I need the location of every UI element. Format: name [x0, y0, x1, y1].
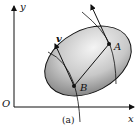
rigid-body-ellipse — [33, 12, 140, 110]
point-B-label: B — [79, 82, 87, 93]
rigid-body-diagram: y x O A B v (a) — [0, 0, 140, 129]
x-axis-label: x — [128, 113, 134, 124]
origin-label: O — [2, 98, 10, 109]
point-B — [72, 84, 76, 88]
velocity-label: v — [56, 33, 62, 44]
point-A-label: A — [113, 41, 121, 52]
figure-caption: (a) — [62, 115, 74, 125]
point-A — [107, 42, 111, 46]
y-axis-label: y — [19, 1, 26, 12]
